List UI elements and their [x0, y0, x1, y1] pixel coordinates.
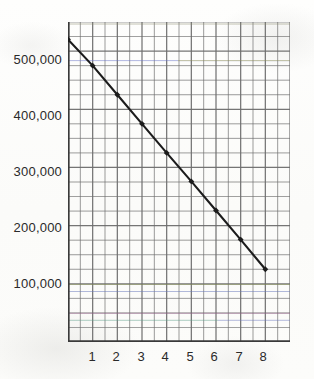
plot-area	[68, 22, 290, 342]
x-tick-label: 8	[254, 349, 272, 364]
x-tick-label: 7	[230, 349, 248, 364]
x-tick-label: 2	[107, 349, 125, 364]
x-tick-label: 1	[83, 349, 101, 364]
chart-page: 500,000 400,000 300,000 200,000 100,000 …	[0, 0, 314, 379]
x-tick-label: 5	[181, 349, 199, 364]
x-tick-label: 4	[156, 349, 174, 364]
x-tick-label: 6	[205, 349, 223, 364]
x-tick-label: 3	[132, 349, 150, 364]
chart-svg	[68, 22, 290, 342]
